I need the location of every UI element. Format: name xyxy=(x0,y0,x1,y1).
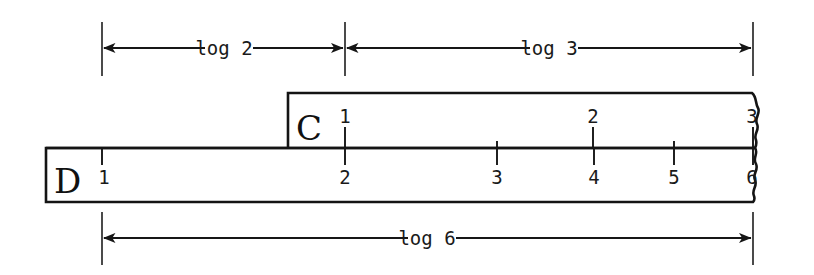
scale-C-label-2: 2 xyxy=(587,105,598,127)
scale-D-label-2: 2 xyxy=(339,166,350,188)
scale-C-label-1: 1 xyxy=(339,105,350,127)
scale-D-label-6: 6 xyxy=(746,166,757,188)
dimension-log2: log 2 xyxy=(104,37,343,59)
scale-D-label-1: 1 xyxy=(98,166,109,188)
dimension-log3-label: log 3 xyxy=(520,37,577,59)
scale-D-label-4: 4 xyxy=(588,166,599,188)
scale-C-body xyxy=(288,93,759,148)
dimension-log2-label: log 2 xyxy=(195,37,252,59)
dimension-log6: log 6 xyxy=(104,227,751,249)
scale-C-letter: C xyxy=(296,108,322,148)
scale-D-label-5: 5 xyxy=(668,166,679,188)
scale-D-letter: D xyxy=(54,161,81,201)
scale-C-label-3: 3 xyxy=(746,105,757,127)
scale-D: D 1 2 3 4 5 6 xyxy=(46,148,758,202)
dimension-log3: log 3 xyxy=(347,37,751,59)
slide-rule-figure: log 2 log 3 C 1 2 3 xyxy=(0,0,814,275)
scale-C: C 1 2 3 xyxy=(288,93,759,148)
scale-D-label-3: 3 xyxy=(491,166,502,188)
figure-canvas: log 2 log 3 C 1 2 3 xyxy=(0,0,814,275)
dimension-log6-label: log 6 xyxy=(398,227,455,249)
scale-D-body xyxy=(46,148,757,202)
